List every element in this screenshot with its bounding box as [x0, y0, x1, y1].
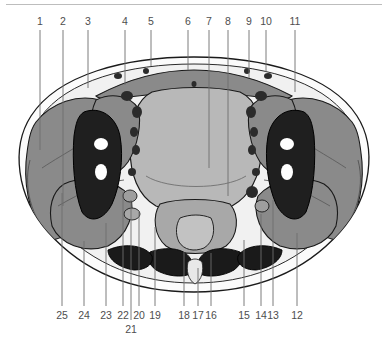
callout-label-5[interactable]: 5	[148, 16, 154, 27]
left-bone-marrow-cavity-lower	[95, 164, 107, 180]
callout-label-8[interactable]: 8	[225, 16, 231, 27]
right-small-vessel-c	[252, 168, 260, 176]
callout-label-23[interactable]: 23	[100, 310, 112, 321]
left-iliac-vessel	[132, 106, 142, 118]
left-node-structure-2	[124, 208, 140, 220]
callout-label-20[interactable]: 20	[133, 310, 145, 321]
callout-label-17[interactable]: 17	[192, 310, 204, 321]
right-iliac-vessel	[246, 106, 256, 118]
left-small-vessel-b	[132, 145, 140, 155]
callout-label-24[interactable]: 24	[78, 310, 90, 321]
midline-organ-small	[176, 215, 213, 250]
subcutaneous-vessel-dot-center	[143, 68, 149, 74]
callout-label-21[interactable]: 21	[125, 324, 137, 335]
callout-label-10[interactable]: 10	[260, 16, 272, 27]
left-node-structure	[123, 190, 137, 202]
subcutaneous-vessel-dot-left	[114, 73, 122, 79]
callout-label-12[interactable]: 12	[291, 310, 303, 321]
right-node-structure-2	[255, 200, 269, 212]
callout-label-3[interactable]: 3	[85, 16, 91, 27]
central-organ-mass	[130, 88, 262, 213]
callout-label-4[interactable]: 4	[122, 16, 128, 27]
left-small-vessel-a	[130, 127, 138, 137]
callout-label-11[interactable]: 11	[290, 16, 301, 27]
callout-label-19[interactable]: 19	[149, 310, 161, 321]
left-bone-marrow-cavity-upper	[94, 138, 108, 150]
right-small-vessel-a	[250, 127, 258, 137]
linea-alba-marker	[192, 81, 197, 87]
callout-label-16[interactable]: 16	[205, 310, 217, 321]
right-node-structure	[246, 186, 258, 198]
callout-label-14[interactable]: 14	[255, 310, 267, 321]
callout-label-13[interactable]: 13	[267, 310, 279, 321]
left-small-vessel-c	[128, 168, 136, 176]
callout-label-15[interactable]: 15	[238, 310, 250, 321]
callout-label-7[interactable]: 7	[206, 16, 212, 27]
callout-label-2[interactable]: 2	[60, 16, 66, 27]
left-femoral-vessel	[121, 91, 133, 101]
right-femoral-vessel	[255, 91, 267, 101]
right-bone-marrow-cavity-upper	[280, 138, 294, 150]
anatomy-diagram	[0, 0, 388, 349]
right-small-vessel-b	[248, 145, 256, 155]
callout-label-25[interactable]: 25	[56, 310, 68, 321]
callout-label-9[interactable]: 9	[246, 16, 252, 27]
right-bone-marrow-cavity-lower	[281, 164, 293, 180]
callout-label-18[interactable]: 18	[178, 310, 190, 321]
callout-label-22[interactable]: 22	[117, 310, 129, 321]
callout-label-6[interactable]: 6	[185, 16, 191, 27]
callout-label-1[interactable]: 1	[37, 16, 43, 27]
subcutaneous-vessel-dot-right2	[264, 73, 272, 79]
figure-root: 1234567891011252423222019181716151413122…	[0, 0, 388, 349]
